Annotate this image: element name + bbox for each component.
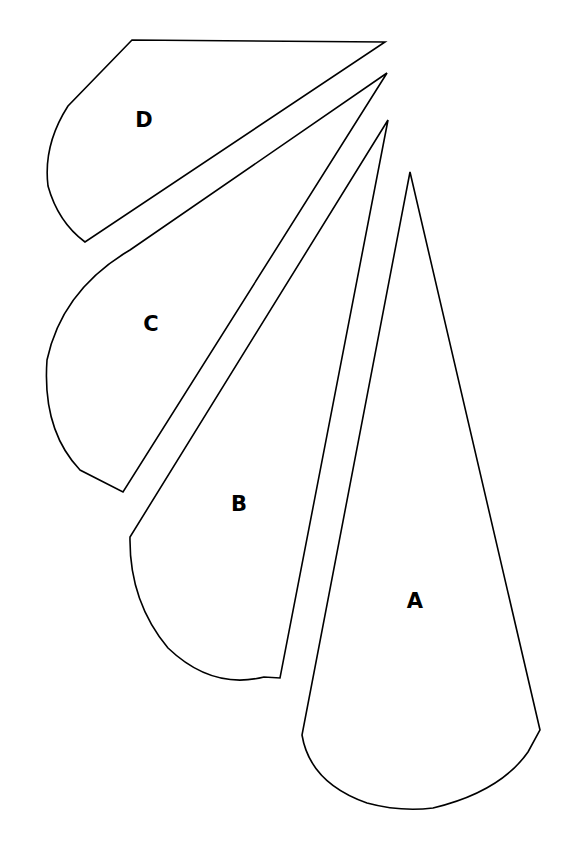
piece-label-d: D — [135, 110, 152, 131]
cone-sector-diagram — [0, 0, 571, 848]
piece-label-c: C — [143, 314, 158, 335]
piece-label-b: B — [231, 494, 247, 515]
piece-label-a: A — [407, 591, 423, 612]
figure-canvas: A B C D — [0, 0, 571, 848]
piece-outlines-group — [46, 40, 540, 809]
